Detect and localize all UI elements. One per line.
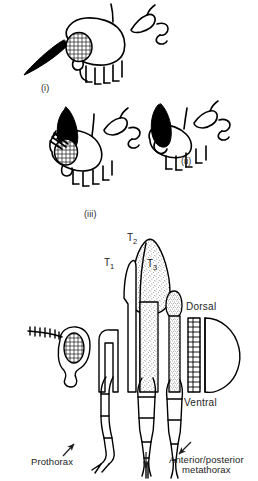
lower-figure xyxy=(28,239,240,478)
label-t1-sub: 1 xyxy=(110,262,114,271)
prothorax-arrow xyxy=(63,444,74,456)
label-segment-t3: T3 xyxy=(147,259,157,272)
label-metathorax: Anterior/posterior metathorax xyxy=(169,455,244,476)
label-dorsal: Dorsal xyxy=(186,302,216,313)
label-t3-sub: 3 xyxy=(153,263,157,272)
label-t2-sub: 2 xyxy=(133,237,137,246)
specimen-iii xyxy=(50,107,140,186)
label-specimen-iii: (iii) xyxy=(84,210,97,220)
label-specimen-i: (i) xyxy=(41,84,49,94)
figure-page: (i) (ii) (iii) T1 T2 T3 Dorsal Ventral P… xyxy=(0,0,258,481)
specimen-i xyxy=(24,4,168,84)
label-segment-t1: T1 xyxy=(104,258,114,271)
label-metathorax-line2: metathorax xyxy=(169,465,244,475)
label-prothorax: Prothorax xyxy=(31,457,73,467)
label-segment-t2: T2 xyxy=(127,233,137,246)
label-ventral: Ventral xyxy=(184,398,217,409)
label-specimen-ii: (ii) xyxy=(181,157,191,167)
metathorax-arrow xyxy=(179,442,191,454)
